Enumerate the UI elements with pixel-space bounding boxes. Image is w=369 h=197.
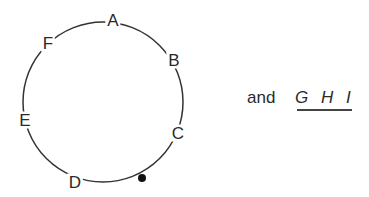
label-e: E <box>17 112 32 129</box>
ghi-sequence: G H I <box>295 88 355 108</box>
label-a: A <box>105 12 120 29</box>
ghi-underline <box>297 109 352 111</box>
position-marker-dot <box>138 174 146 182</box>
label-c: C <box>170 125 186 142</box>
label-f: F <box>41 35 55 52</box>
and-text: and <box>247 88 275 108</box>
label-b: B <box>166 52 181 69</box>
label-d: D <box>67 174 83 191</box>
